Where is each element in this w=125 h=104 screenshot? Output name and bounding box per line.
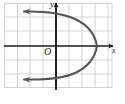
graph-canvas	[0, 0, 125, 104]
x-axis-label: x	[112, 47, 116, 55]
parabola-graph-figure: y x O	[0, 0, 125, 104]
y-axis-label: y	[50, 0, 54, 9]
origin-label: O	[44, 47, 51, 57]
